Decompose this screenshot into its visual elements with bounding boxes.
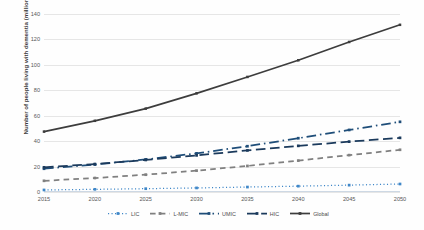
x-tick-label: 2015 <box>38 196 50 202</box>
data-point-marker <box>246 145 249 148</box>
legend-swatch-lic-icon <box>108 210 128 217</box>
series-line-global <box>44 25 400 132</box>
chart-legend: LICL-MICUMICHICGlobal <box>108 210 329 217</box>
gridline <box>44 192 400 193</box>
data-point-marker <box>195 92 198 95</box>
data-point-marker <box>297 159 300 162</box>
legend-item-global[interactable]: Global <box>290 210 329 217</box>
data-point-marker <box>348 184 351 187</box>
data-point-marker <box>297 185 300 188</box>
legend-swatch-umic-icon <box>199 210 219 217</box>
legend-label: UMIC <box>222 211 236 217</box>
x-tick-label: 2035 <box>241 196 253 202</box>
data-point-marker <box>297 144 300 147</box>
y-tick-label: 40 <box>34 138 40 144</box>
data-point-marker <box>246 76 249 79</box>
data-point-marker <box>195 187 198 190</box>
x-tick-label: 2050 <box>394 196 406 202</box>
data-point-marker <box>297 59 300 62</box>
legend-swatch-l-mic-icon <box>150 210 170 217</box>
y-tick-label: 20 <box>34 164 40 170</box>
data-point-marker <box>348 154 351 157</box>
legend-item-lic[interactable]: LIC <box>108 210 139 217</box>
data-point-marker <box>348 129 351 132</box>
data-point-marker <box>246 149 249 152</box>
data-point-marker <box>399 136 402 139</box>
legend-label: L-MIC <box>173 211 188 217</box>
y-tick-label: 120 <box>31 36 40 42</box>
legend-swatch-global-icon <box>290 210 310 217</box>
legend-label: HIC <box>270 211 279 217</box>
data-point-marker <box>348 140 351 143</box>
data-point-marker <box>399 120 402 123</box>
data-point-marker <box>348 41 351 44</box>
x-tick-label: 2025 <box>139 196 151 202</box>
y-tick-label: 140 <box>31 11 40 17</box>
data-point-marker <box>399 183 402 186</box>
x-tick-label: 2020 <box>89 196 101 202</box>
data-point-marker <box>94 120 97 123</box>
data-point-marker <box>195 169 198 172</box>
data-point-marker <box>144 173 147 176</box>
data-point-marker <box>297 137 300 140</box>
data-point-marker <box>195 154 198 157</box>
legend-label: LIC <box>131 211 139 217</box>
legend-label: Global <box>313 211 329 217</box>
series-line-l-mic <box>44 150 400 181</box>
y-tick-label: 0 <box>37 189 40 195</box>
series-line-lic <box>44 184 400 190</box>
legend-swatch-hic-icon <box>247 210 267 217</box>
data-point-marker <box>144 187 147 190</box>
legend-item-umic[interactable]: UMIC <box>199 210 236 217</box>
data-point-marker <box>94 163 97 166</box>
y-tick-label: 60 <box>34 113 40 119</box>
series-line-hic <box>44 138 400 167</box>
data-point-marker <box>246 165 249 168</box>
data-point-marker <box>399 148 402 151</box>
x-tick-label: 2030 <box>190 196 202 202</box>
series-lines <box>44 14 400 192</box>
y-tick-label: 80 <box>34 87 40 93</box>
data-point-marker <box>94 188 97 191</box>
legend-item-hic[interactable]: HIC <box>247 210 279 217</box>
data-point-marker <box>144 107 147 110</box>
x-tick-label: 2045 <box>343 196 355 202</box>
data-point-marker <box>43 130 46 133</box>
x-tick-label: 2040 <box>292 196 304 202</box>
data-point-marker <box>94 177 97 180</box>
y-tick-label: 100 <box>31 62 40 68</box>
data-point-marker <box>43 179 46 182</box>
y-axis-title: Number of people living with dementia (m… <box>22 0 29 151</box>
data-point-marker <box>246 186 249 189</box>
data-point-marker <box>43 189 46 192</box>
data-point-marker <box>43 166 46 169</box>
series-line-umic <box>44 122 400 169</box>
data-point-marker <box>399 24 402 27</box>
plot-area: 020406080100120140 201520202025203020352… <box>44 14 400 192</box>
legend-item-l-mic[interactable]: L-MIC <box>150 210 188 217</box>
dementia-projection-chart: Number of people living with dementia (m… <box>0 0 424 230</box>
data-point-marker <box>144 159 147 162</box>
